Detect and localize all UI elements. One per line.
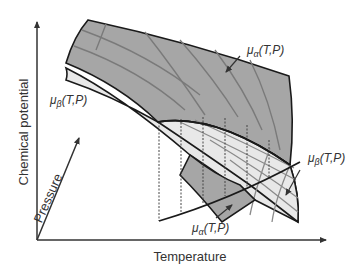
svg-text:μα(T,P): μα(T,P) — [246, 43, 284, 59]
svg-text:μα(T,P): μα(T,P) — [191, 221, 229, 237]
x-axis-label: Temperature — [154, 249, 227, 264]
chemical-potential-diagram: Chemical potential Temperature Pressure … — [0, 0, 360, 272]
label-mu-beta-left: μβ(T,P) — [49, 93, 87, 109]
svg-text:μβ(T,P): μβ(T,P) — [49, 93, 87, 109]
pressure-axis-label: Pressure — [30, 171, 65, 225]
svg-text:μβ(T,P): μβ(T,P) — [307, 151, 345, 167]
y-axis-label: Chemical potential — [16, 78, 31, 185]
